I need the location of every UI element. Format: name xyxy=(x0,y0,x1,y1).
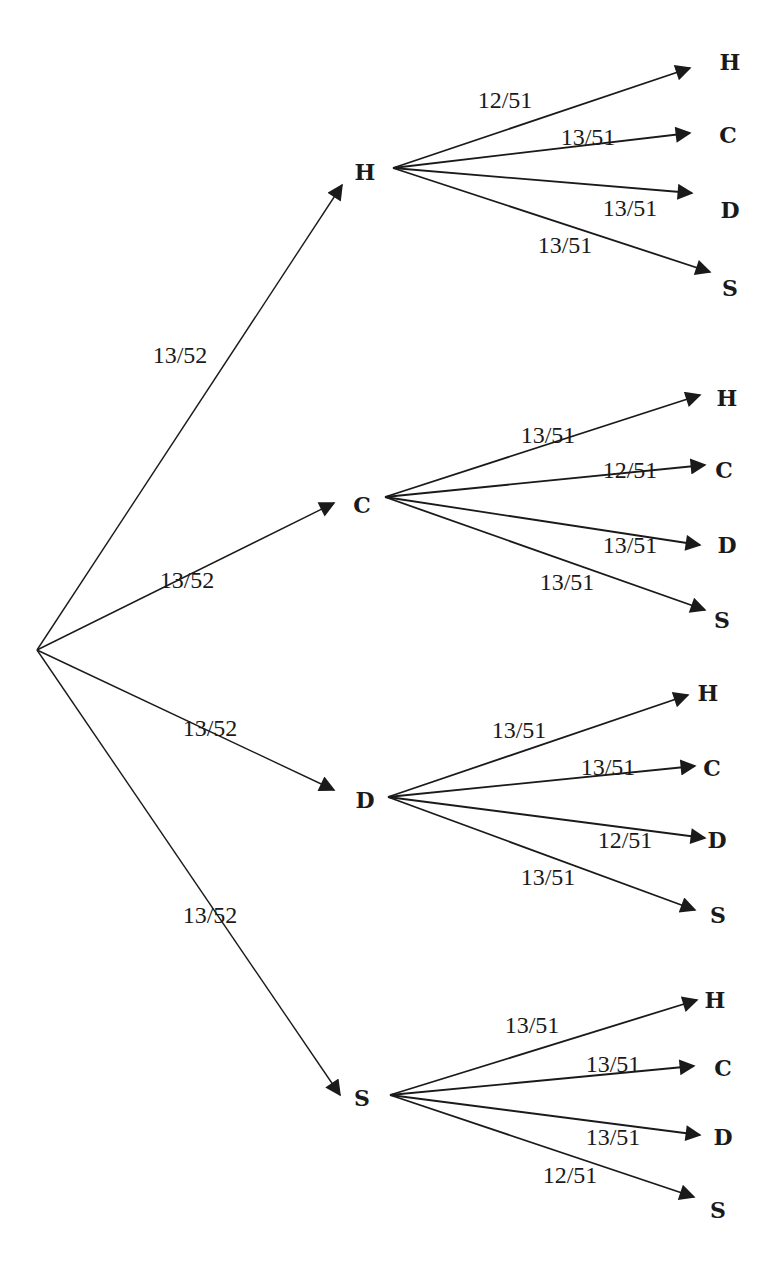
tree-node-s: S xyxy=(354,1087,370,1109)
leaf-node-c: C xyxy=(714,1057,732,1079)
probability-label-level1: 13/52 xyxy=(183,716,238,740)
probability-label-level2: 12/51 xyxy=(543,1163,598,1187)
leaf-node-h: H xyxy=(698,682,719,704)
probability-label-level2: 12/51 xyxy=(603,458,658,482)
probability-label-level2: 13/51 xyxy=(581,755,636,779)
probability-label-level1: 13/52 xyxy=(153,343,208,367)
probability-label-level2: 13/51 xyxy=(538,233,593,257)
leaf-node-s: S xyxy=(710,1199,726,1221)
branch-level2-d-d xyxy=(388,797,705,838)
tree-node-h: H xyxy=(355,161,376,183)
probability-label-level2: 13/51 xyxy=(603,196,658,220)
probability-label-level2: 12/51 xyxy=(478,88,533,112)
tree-node-d: D xyxy=(355,789,374,811)
leaf-node-h: H xyxy=(717,387,738,409)
probability-label-level2: 13/51 xyxy=(561,125,616,149)
leaf-node-c: C xyxy=(719,124,737,146)
leaf-node-d: D xyxy=(713,1126,732,1148)
leaf-node-d: D xyxy=(707,829,726,851)
probability-label-level1: 13/52 xyxy=(160,568,215,592)
leaf-node-h: H xyxy=(720,51,741,73)
branch-level2-s-d xyxy=(390,1095,700,1135)
probability-label-level1: 13/52 xyxy=(183,903,238,927)
leaf-node-c: C xyxy=(703,757,721,779)
tree-edges xyxy=(0,0,769,1265)
probability-label-level2: 13/51 xyxy=(586,1125,641,1149)
tree-node-c: C xyxy=(353,494,371,516)
leaf-node-h: H xyxy=(705,989,726,1011)
probability-label-level2: 13/51 xyxy=(521,865,576,889)
branch-level2-h-d xyxy=(393,168,692,193)
leaf-node-d: D xyxy=(717,534,736,556)
leaf-node-c: C xyxy=(715,459,733,481)
probability-label-level2: 13/51 xyxy=(586,1052,641,1076)
branch-level2-d-s xyxy=(388,797,695,910)
probability-label-level2: 12/51 xyxy=(598,828,653,852)
probability-label-level2: 13/51 xyxy=(505,1013,560,1037)
probability-label-level2: 13/51 xyxy=(492,718,547,742)
probability-tree-diagram: 13/52H12/51H13/51C13/51D13/51S13/52C13/5… xyxy=(0,0,769,1265)
leaf-node-d: D xyxy=(720,199,739,221)
probability-label-level2: 13/51 xyxy=(540,570,595,594)
leaf-node-s: S xyxy=(722,277,738,299)
probability-label-level2: 13/51 xyxy=(603,533,658,557)
leaf-node-s: S xyxy=(714,609,730,631)
branch-level2-h-c xyxy=(393,133,690,168)
branch-level2-h-h xyxy=(393,68,690,168)
leaf-node-s: S xyxy=(710,904,726,926)
probability-label-level2: 13/51 xyxy=(521,423,576,447)
